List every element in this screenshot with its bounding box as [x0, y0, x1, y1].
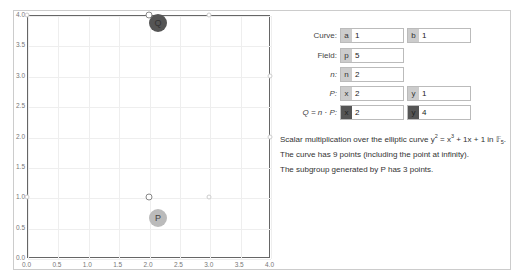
curve-point[interactable]	[268, 73, 273, 78]
q-y-output: y 4	[407, 105, 471, 120]
y-tick-label: 2.5	[16, 102, 25, 109]
y-tick-label: 0.5	[16, 224, 25, 231]
x-tick-label: 3.5	[235, 261, 244, 268]
qy-prefix: y	[408, 106, 419, 119]
n-prefix: n	[341, 68, 352, 81]
p-prefix: p	[341, 49, 352, 62]
curve-point[interactable]	[145, 194, 152, 201]
p-x-input[interactable]: x 2	[340, 86, 404, 101]
x-tick-label: 0.5	[52, 261, 61, 268]
gridline-y	[28, 259, 271, 260]
n-value: 2	[352, 70, 359, 79]
x-tick-label: 1.5	[113, 261, 122, 268]
x-tick-label: 2.5	[174, 261, 183, 268]
curve-point[interactable]	[25, 195, 30, 200]
qy-value: 4	[419, 108, 426, 117]
curve-a-input[interactable]: a 1	[340, 28, 404, 43]
a-value: 1	[352, 31, 359, 40]
x-tick-label: 1.0	[83, 261, 92, 268]
gridline-y	[28, 168, 271, 169]
py-prefix: y	[408, 87, 419, 100]
n-input[interactable]: n 2	[340, 67, 404, 82]
gridline-y	[28, 46, 271, 47]
curve-point[interactable]	[207, 13, 212, 18]
n-label: n:	[280, 70, 337, 79]
qx-value: 2	[352, 108, 359, 117]
y-tick-label: 3.5	[16, 41, 25, 48]
description-line-3: The subgroup generated by P has 3 points…	[280, 165, 433, 174]
description-line-1: Scalar multiplication over the elliptic …	[280, 133, 506, 145]
b-value: 1	[419, 31, 426, 40]
px-value: 2	[352, 89, 359, 98]
y-tick-label: 2.0	[16, 133, 25, 140]
q-x-output: x 2	[340, 105, 404, 120]
curve-b-input[interactable]: b 1	[407, 28, 471, 43]
y-tick-label: 0.0	[16, 254, 25, 261]
p-y-input[interactable]: y 1	[407, 86, 471, 101]
curve-point[interactable]	[25, 13, 30, 18]
point-marker-q[interactable]: Q	[149, 14, 167, 32]
y-tick-label: 1.5	[16, 163, 25, 170]
q-point-label: Q = n · P:	[280, 108, 337, 117]
x-tick-label: 4.0	[265, 261, 274, 268]
gridline-y	[28, 138, 271, 139]
gridline-y	[28, 107, 271, 108]
gridline-y	[28, 77, 271, 78]
x-tick-label: 0.0	[22, 261, 31, 268]
gridline-y	[28, 229, 271, 230]
qx-prefix: x	[341, 106, 352, 119]
field-label: Field:	[280, 51, 337, 60]
y-tick-label: 3.0	[16, 72, 25, 79]
x-tick-label: 3.0	[204, 261, 213, 268]
point-marker-p[interactable]: P	[149, 209, 167, 227]
b-prefix: b	[408, 29, 419, 42]
px-prefix: x	[341, 87, 352, 100]
p-point-label: P:	[280, 89, 337, 98]
x-tick-label: 2.0	[144, 261, 153, 268]
a-prefix: a	[341, 29, 352, 42]
p-value: 5	[352, 51, 359, 60]
field-p-input[interactable]: p 5	[340, 48, 404, 63]
py-value: 1	[419, 89, 426, 98]
scatter-plot[interactable]	[27, 15, 270, 258]
curve-label: Curve:	[280, 31, 337, 40]
curve-point[interactable]	[207, 195, 212, 200]
curve-point[interactable]	[268, 134, 273, 139]
description-line-2: The curve has 9 points (including the po…	[280, 150, 469, 159]
